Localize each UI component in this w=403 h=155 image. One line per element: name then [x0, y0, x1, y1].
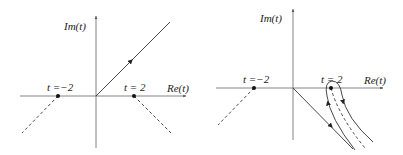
left-x-axis-label: Re(t) — [166, 82, 189, 95]
right-branch-cut-pos — [331, 88, 365, 148]
contour-diagram: Im(t) Re(t) t =−2 t = 2 Im(t) Re(t) t =−… — [0, 0, 403, 155]
right-keyhole-contour — [326, 81, 373, 150]
right-branch-point-pos — [329, 86, 333, 90]
right-branch-cut-neg — [218, 88, 254, 125]
left-point-neg-label: t =−2 — [47, 81, 74, 93]
left-point-pos-label: t = 2 — [124, 81, 146, 93]
right-branch-point-neg — [252, 86, 256, 90]
left-branch-cut-pos — [134, 96, 172, 134]
right-y-axis-label: Im(t) — [259, 12, 282, 25]
left-panel: Im(t) Re(t) t =−2 t = 2 — [20, 16, 189, 148]
right-point-neg-label: t =−2 — [243, 73, 270, 85]
left-branch-point-neg — [56, 94, 60, 98]
right-x-axis-label: Re(t) — [363, 74, 386, 87]
right-panel: Im(t) Re(t) t =−2 t = 2 — [216, 9, 386, 150]
left-branch-cut-neg — [22, 96, 58, 133]
left-y-axis-label: Im(t) — [63, 20, 86, 33]
left-branch-point-pos — [132, 94, 136, 98]
right-point-pos-label: t = 2 — [321, 73, 343, 85]
